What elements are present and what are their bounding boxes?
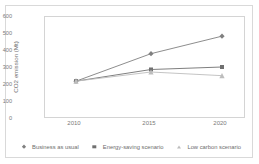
y-axis-tick-200: 200 (0, 81, 12, 87)
legend-label: Low carbon scenario (187, 144, 241, 150)
legend-item-energy-saving-scenario[interactable]: Energy-saving scenario (88, 144, 164, 150)
plot-area (44, 16, 245, 118)
y-axis-tick-100: 100 (0, 98, 12, 104)
y-axis-tick-0: 0 (0, 115, 12, 121)
y-axis-tick-600: 600 (0, 13, 12, 19)
x-axis-tick-2010: 2010 (54, 120, 94, 126)
triangle-marker-icon (172, 147, 185, 148)
chart-card: CO2 emission (Mt) 600 500 400 300 200 10… (0, 0, 259, 164)
y-axis-tick-300: 300 (0, 64, 12, 70)
legend-label: Business as usual (32, 144, 79, 150)
series-0-point-2 (219, 34, 224, 39)
diamond-marker-icon (17, 147, 30, 148)
y-axis-tick-400: 400 (0, 47, 12, 53)
chart-legend: Business as usual Energy-saving scenario… (5, 140, 253, 154)
series-1-point-2 (220, 65, 224, 69)
series-0-point-1 (148, 51, 153, 56)
legend-item-low-carbon-scenario[interactable]: Low carbon scenario (172, 144, 241, 150)
series-svg (45, 17, 244, 117)
x-axis-tick-2020: 2020 (200, 120, 240, 126)
legend-label: Energy-saving scenario (103, 144, 164, 150)
square-marker-icon (88, 147, 101, 148)
y-axis-tick-500: 500 (0, 30, 12, 36)
y-axis-title: CO2 emission (Mt) (12, 41, 19, 93)
legend-item-business-as-usual[interactable]: Business as usual (17, 144, 79, 150)
x-axis-tick-2015: 2015 (129, 120, 169, 126)
